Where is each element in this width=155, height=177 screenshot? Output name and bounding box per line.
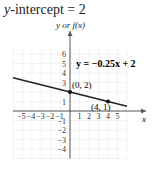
point-label-0-2: (0, 2) <box>72 80 92 90</box>
point-marker <box>68 90 72 94</box>
graph: −5−4−3−2−112345−4−3−2−113456x(0, 2)(4, 1… <box>0 0 155 177</box>
y-tick-label: 6 <box>62 50 66 59</box>
y-tick-label: −1 <box>57 117 66 126</box>
x-tick-label: 3 <box>97 112 101 121</box>
x-tick-label: 1 <box>78 112 82 121</box>
x-tick-label: −5 <box>17 112 26 121</box>
y-axis-arrow-icon <box>68 31 73 36</box>
point-label-4-1: (4, 1) <box>91 102 111 112</box>
y-tick-label: 3 <box>62 79 66 88</box>
x-tick-label: 2 <box>87 112 91 121</box>
x-tick-label: −4 <box>27 112 36 121</box>
y-tick-label: 5 <box>62 60 66 69</box>
y-tick-label: −2 <box>57 126 66 135</box>
y-tick-label: 1 <box>62 98 66 107</box>
x-tick-label: 5 <box>116 112 120 121</box>
y-tick-label: −4 <box>57 145 66 154</box>
x-tick-label: −3 <box>36 112 45 121</box>
y-tick-label: −3 <box>57 136 66 145</box>
x-axis-arrow-icon <box>141 109 146 114</box>
y-tick-label: 4 <box>62 69 66 78</box>
x-tick-label: −2 <box>46 112 55 121</box>
equation-label: y = −0.25x + 2 <box>76 58 136 69</box>
x-tick-label: 4 <box>106 112 110 121</box>
x-axis-label: x <box>141 114 146 124</box>
